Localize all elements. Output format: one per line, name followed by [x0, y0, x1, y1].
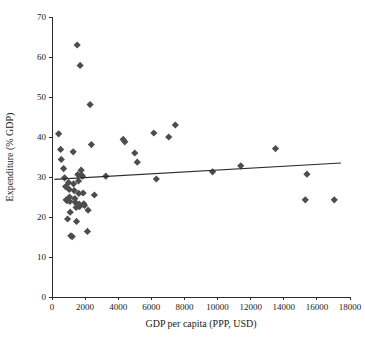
data-point	[134, 159, 141, 166]
y-tick-label: 60	[37, 52, 47, 62]
y-axis-ticks: 010203040506070	[37, 12, 52, 302]
data-point	[272, 145, 279, 152]
data-point	[172, 121, 179, 128]
data-point	[91, 191, 98, 198]
data-point	[303, 171, 310, 178]
data-point	[57, 146, 64, 153]
x-tick-label: 6000	[142, 302, 161, 312]
data-point	[70, 148, 77, 155]
data-point	[61, 174, 68, 181]
x-tick-label: 18000	[339, 302, 362, 312]
data-point	[60, 165, 67, 172]
x-tick-label: 2000	[76, 302, 95, 312]
data-point	[80, 189, 87, 196]
x-tick-label: 10000	[206, 302, 229, 312]
data-point	[131, 149, 138, 156]
y-tick-label: 30	[37, 172, 47, 182]
data-point	[150, 129, 157, 136]
data-point	[73, 218, 80, 225]
y-tick-label: 10	[37, 252, 47, 262]
x-axis-title: GDP per capita (PPP, USD)	[145, 318, 256, 330]
data-point	[67, 209, 74, 216]
x-tick-label: 8000	[175, 302, 194, 312]
data-point-group	[55, 41, 338, 240]
x-axis-ticks: 0200040006000800010000120001400016000180…	[50, 297, 362, 312]
x-tick-label: 0	[50, 302, 55, 312]
data-point	[58, 156, 65, 163]
y-axis-title: Expenditure (% GDP)	[4, 113, 16, 202]
data-point	[88, 141, 95, 148]
data-point	[302, 196, 309, 203]
x-tick-label: 16000	[306, 302, 329, 312]
data-point	[165, 133, 172, 140]
trendline	[54, 163, 340, 179]
y-tick-label: 50	[37, 92, 47, 102]
y-tick-label: 0	[42, 292, 47, 302]
x-tick-label: 4000	[109, 302, 128, 312]
data-point	[153, 175, 160, 182]
x-tick-label: 14000	[273, 302, 296, 312]
x-tick-label: 12000	[239, 302, 262, 312]
data-point	[331, 196, 338, 203]
y-tick-label: 20	[37, 212, 47, 222]
scatter-chart-figure: 010203040506070 020004000600080001000012…	[0, 0, 365, 349]
data-point	[84, 228, 91, 235]
data-point	[209, 168, 216, 175]
y-tick-label: 70	[37, 12, 47, 22]
data-point	[74, 41, 81, 48]
data-point	[86, 101, 93, 108]
chart-canvas: 010203040506070 020004000600080001000012…	[0, 0, 365, 349]
data-point	[77, 62, 84, 69]
data-point	[64, 215, 71, 222]
data-point	[55, 130, 62, 137]
y-tick-label: 40	[37, 132, 47, 142]
